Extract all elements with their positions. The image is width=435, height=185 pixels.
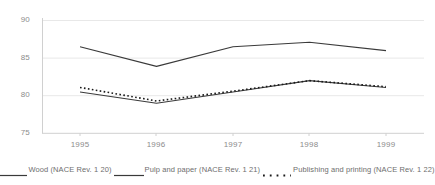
xtick-label-1999: 1999 bbox=[361, 140, 411, 149]
ytick-label-80: 80 bbox=[4, 90, 30, 99]
xtick-label-1995: 1995 bbox=[55, 140, 105, 149]
xtick-label-1996: 1996 bbox=[131, 140, 181, 149]
legend-entry-wood: Wood (NACE Rev. 1 20) bbox=[0, 165, 112, 174]
legend-label-wood: Wood (NACE Rev. 1 20) bbox=[27, 165, 111, 174]
legend-label-pulp-and-paper: Pulp and paper (NACE Rev. 1 21) bbox=[144, 165, 261, 174]
legend-entry-pulp-and-paper: Pulp and paper (NACE Rev. 1 21) bbox=[114, 165, 261, 174]
series-line-pulp-and-paper bbox=[80, 81, 386, 104]
chart-legend: Wood (NACE Rev. 1 20) Pulp and paper (NA… bbox=[0, 160, 432, 178]
ytick-label-90: 90 bbox=[4, 15, 30, 24]
xtick-label-1997: 1997 bbox=[208, 140, 258, 149]
legend-swatch-solid-icon bbox=[0, 165, 27, 173]
legend-entry-publishing-and-printing: Publishing and printing (NACE Rev. 1 22) bbox=[262, 165, 434, 174]
xtick-label-1998: 1998 bbox=[284, 140, 334, 149]
legend-label-publishing-and-printing: Publishing and printing (NACE Rev. 1 22) bbox=[292, 165, 434, 174]
legend-swatch-dotted-icon bbox=[262, 165, 292, 173]
legend-swatch-solid-icon bbox=[114, 165, 144, 173]
ytick-label-75: 75 bbox=[4, 128, 30, 137]
ytick-label-85: 85 bbox=[4, 53, 30, 62]
series-line-wood bbox=[80, 42, 386, 66]
